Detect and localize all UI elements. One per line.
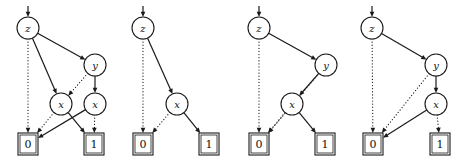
edge-arrowhead-icon	[436, 128, 441, 133]
edge-line	[387, 110, 427, 135]
edge-solid-d2-z-to-d2-x	[147, 38, 172, 94]
edge-dotted-d1-y-to-d1-x1	[68, 73, 88, 95]
terminal-label: 0	[25, 138, 32, 151]
edge-solid-d3-x-to-d3-t1	[299, 112, 316, 133]
terminal-node-0-d4-t0[interactable]: 0	[363, 133, 383, 155]
decision-node-x-d3-x[interactable]: x	[281, 93, 303, 115]
edge-solid-d4-z-to-d4-y	[382, 34, 427, 60]
edge-line	[184, 113, 197, 130]
node-label: x	[174, 99, 180, 110]
edge-solid-d3-y-to-d3-x	[299, 73, 319, 95]
node-label: z	[368, 23, 375, 34]
edge-line	[302, 73, 319, 92]
edge-arrowhead-icon	[141, 128, 146, 133]
edge-arrowhead-icon	[93, 88, 98, 93]
edge-dotted-d2-x-to-d2-t0	[152, 112, 170, 133]
edge-line	[71, 73, 88, 92]
edge-solid-d1-z-to-d1-y	[38, 33, 86, 59]
decision-node-x-d4-x[interactable]: x	[425, 93, 447, 115]
terminal-label: 0	[256, 138, 263, 151]
terminal-node-1-d3-t1[interactable]: 1	[315, 133, 335, 155]
bdd-canvas: zyxx01zx01zyx01zyx01	[0, 0, 467, 164]
terminal-label: 1	[437, 138, 444, 151]
diagram-3: zyx01	[248, 6, 337, 155]
edge-solid-d1-y-to-d1-x2	[93, 76, 98, 93]
node-label: x	[289, 99, 295, 110]
root-arrow	[370, 6, 375, 17]
decision-node-y-d4-y[interactable]: y	[425, 54, 447, 76]
edge-line	[382, 34, 423, 58]
edge-line	[32, 38, 54, 90]
decision-node-y-d1-y[interactable]: y	[84, 54, 106, 76]
edge-arrowhead-icon	[371, 128, 376, 133]
node-label: x	[92, 99, 98, 110]
node-label: z	[139, 23, 146, 34]
node-label: x	[58, 99, 64, 110]
edge-dotted-d1-x2-to-d1-t1	[92, 115, 97, 133]
terminal-node-0-d3-t0[interactable]: 0	[249, 133, 269, 155]
edge-dotted-d2-z-to-d2-t0	[141, 39, 146, 133]
edge-solid-d1-z-to-d1-x1	[32, 38, 56, 94]
edge-arrowhead-icon	[257, 128, 262, 133]
edge-line	[155, 112, 170, 129]
edge-dotted-d1-z-to-d1-t0	[26, 39, 31, 133]
edge-line	[147, 38, 170, 90]
bdd-figure: zyxx01zx01zyx01zyx01	[0, 0, 467, 164]
edge-solid-d2-x-to-d2-t1	[184, 113, 200, 133]
edge-arrowhead-icon	[37, 128, 42, 133]
terminal-node-1-d4-t1[interactable]: 1	[430, 133, 450, 155]
terminal-node-0-d2-t0[interactable]: 0	[133, 133, 153, 155]
decision-node-x-d1-x2[interactable]: x	[84, 93, 106, 115]
terminal-label: 0	[140, 138, 147, 151]
edge-line	[299, 112, 313, 129]
node-label: z	[255, 23, 262, 34]
edge-dotted-d4-z-to-d4-t0	[371, 39, 376, 133]
diagram-1: zyxx01	[17, 6, 106, 155]
edge-dotted-d4-x-to-d4-t1	[436, 115, 441, 133]
decision-node-x-d1-x1[interactable]: x	[50, 93, 72, 115]
terminal-node-0-d1-t0[interactable]: 0	[18, 133, 38, 155]
edge-arrowhead-icon	[68, 90, 73, 95]
edge-arrowhead-icon	[92, 128, 97, 133]
edge-solid-d3-z-to-d3-y	[269, 33, 317, 59]
node-label: y	[322, 60, 329, 71]
decision-node-z-d2-z[interactable]: z	[132, 17, 154, 39]
terminal-label: 1	[206, 138, 213, 151]
decision-node-y-d3-y[interactable]: y	[315, 54, 337, 76]
decision-node-z-d3-z[interactable]: z	[248, 17, 270, 39]
root-arrowhead-icon	[370, 12, 375, 17]
root-arrowhead-icon	[26, 12, 31, 17]
root-arrow	[141, 6, 146, 17]
edge-dotted-d3-z-to-d3-t0	[257, 39, 262, 133]
root-arrow	[257, 6, 262, 17]
edge-line	[372, 39, 373, 128]
terminal-node-1-d1-t1[interactable]: 1	[84, 133, 104, 155]
root-arrowhead-icon	[141, 12, 146, 17]
root-arrowhead-icon	[257, 12, 262, 17]
terminal-label: 0	[370, 138, 377, 151]
edge-arrowhead-icon	[434, 88, 439, 93]
edge-arrowhead-icon	[26, 128, 31, 133]
edge-line	[271, 112, 285, 129]
decision-node-z-d1-z[interactable]: z	[17, 17, 39, 39]
edge-line	[437, 115, 438, 128]
edge-line	[385, 74, 430, 130]
edge-solid-d4-x-to-d4-t0	[383, 110, 427, 138]
edge-line	[40, 112, 54, 129]
terminal-label: 1	[322, 138, 329, 151]
decision-node-x-d2-x[interactable]: x	[166, 93, 188, 115]
node-label: y	[91, 60, 98, 71]
diagram-2: zx01	[132, 6, 219, 155]
diagram-4: zyx01	[361, 6, 450, 155]
edge-line	[269, 33, 313, 57]
terminal-node-1-d2-t1[interactable]: 1	[199, 133, 219, 155]
decision-node-z-d4-z[interactable]: z	[361, 17, 383, 39]
edge-line	[38, 33, 82, 57]
node-label: x	[433, 99, 439, 110]
edge-arrowhead-icon	[382, 128, 387, 133]
terminal-label: 1	[91, 138, 98, 151]
edge-arrowhead-icon	[152, 128, 157, 133]
root-arrow	[26, 6, 31, 17]
node-label: y	[432, 60, 439, 71]
edge-solid-d4-y-to-d4-x	[434, 76, 439, 93]
